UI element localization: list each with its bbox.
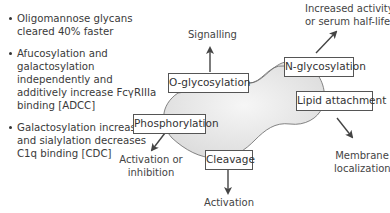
activation-inhibition-line2: inhibition: [116, 167, 186, 180]
cleavage-box: Cleavage: [205, 150, 253, 170]
arrow-increased-activity: [316, 32, 336, 53]
membrane-localization-label: Membrane localization: [334, 150, 390, 175]
activation-inhibition-line1: Activation or: [116, 154, 186, 167]
increased-activity-label: Increased activity or serum half-life: [305, 3, 389, 28]
membrane-line1: Membrane: [334, 150, 390, 163]
o-glycosylation-box: O-glycosylation: [168, 73, 249, 93]
n-glycosylation-box: N-glycosylation: [284, 57, 354, 77]
signalling-label: Signalling: [188, 29, 237, 42]
phosphorylation-box: Phosphorylation: [133, 114, 206, 134]
lipid-attachment-box: Lipid attachment: [296, 91, 373, 111]
activation-inhibition-label: Activation or inhibition: [116, 154, 186, 179]
activation-label: Activation: [204, 197, 254, 210]
increased-activity-line1: Increased activity: [305, 3, 389, 16]
arrow-activation-inhibition: [152, 133, 165, 150]
membrane-line2: localization: [334, 163, 390, 176]
arrow-membrane: [337, 118, 352, 137]
increased-activity-line2: or serum half-life: [305, 16, 389, 29]
